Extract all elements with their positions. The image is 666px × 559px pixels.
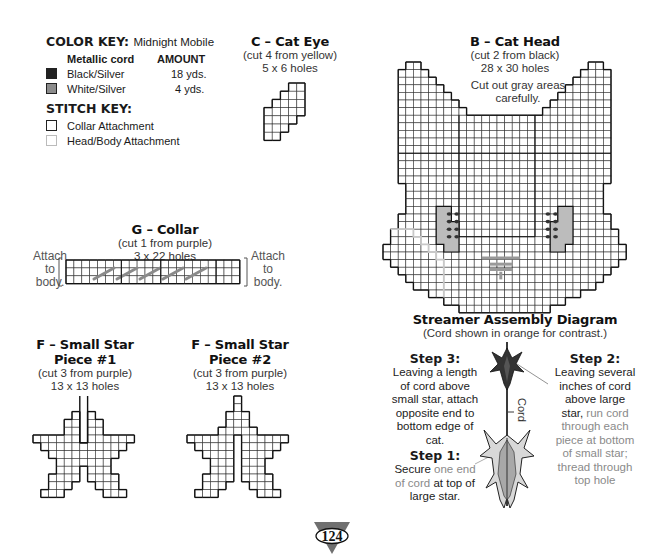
star1-size: 13 x 13 holes (20, 380, 150, 393)
text-dark: Secure (394, 463, 430, 475)
star2-title: F – Small Star (175, 337, 305, 352)
color-key: COLOR KEY: Midnight Mobile Metallic cord… (46, 34, 226, 148)
color-amount: 4 yds. (175, 83, 204, 95)
streamer-subtitle: (Cord shown in orange for contrast.) (400, 327, 630, 340)
cord-label: Cord (516, 398, 528, 422)
star1-header: F – Small Star Piece #1 (cut 3 from purp… (20, 337, 150, 393)
collar-cut: (cut 1 from purple) (90, 237, 240, 250)
cat-head-title: B – Cat Head (440, 34, 590, 49)
collar-left-label: Attach to body. (30, 250, 70, 289)
cat-eye-title: C – Cat Eye (230, 34, 350, 49)
collar-grid (66, 260, 256, 290)
stitch-label: Head/Body Attachment (67, 135, 180, 147)
step2-leader-line (517, 364, 548, 384)
stitch-key-row: Head/Body Attachment (46, 133, 226, 148)
star1-subtitle: Piece #1 (20, 352, 150, 367)
star1-title: F – Small Star (20, 337, 150, 352)
color-key-title: COLOR KEY: Midnight Mobile (46, 34, 226, 49)
text-gray: of cord (395, 477, 430, 489)
black-silver-swatch (46, 68, 57, 79)
color-key-header: Metallic cord AMOUNT (46, 51, 226, 66)
cat-head-cut: (cut 2 from black) (440, 49, 590, 62)
color-key-row: Black/Silver 18 yds. (46, 66, 226, 81)
stitch-label: Collar Attachment (67, 120, 154, 132)
cat-head-grid (383, 62, 623, 292)
color-amount: 18 yds. (171, 68, 206, 80)
collar-header: G – Collar (cut 1 from purple) 3 x 22 ho… (90, 222, 240, 263)
color-key-label: COLOR KEY: (46, 34, 129, 49)
head-body-attachment-swatch (46, 135, 57, 146)
collar-title: G – Collar (90, 222, 240, 237)
white-silver-swatch (46, 83, 57, 94)
collar-attachment-swatch (46, 120, 57, 131)
cat-eye-cut: (cut 4 from yellow) (230, 49, 350, 62)
project-name: Midnight Mobile (133, 36, 214, 48)
stitch-key-row: Collar Attachment (46, 118, 226, 133)
stitch-key-title: STITCH KEY: (46, 101, 226, 116)
star1-cut: (cut 3 from purple) (20, 367, 150, 380)
small-star-icon (490, 348, 524, 390)
color-label: Black/Silver (67, 68, 171, 80)
star2-grid (187, 396, 297, 506)
large-star-icon (480, 430, 534, 508)
streamer-title: Streamer Assembly Diagram (400, 312, 630, 327)
color-label: White/Silver (67, 83, 175, 95)
text-gray: run cord (583, 407, 628, 419)
color-key-row: White/Silver 4 yds. (46, 81, 226, 96)
amount-header: AMOUNT (157, 53, 205, 65)
cat-eye-grid (264, 83, 314, 143)
streamer-header: Streamer Assembly Diagram (Cord shown in… (400, 312, 630, 340)
star1-grid (33, 396, 143, 506)
star2-header: F – Small Star Piece #2 (cut 3 from purp… (175, 337, 305, 393)
streamer-illustration: Cord (470, 340, 570, 520)
cat-eye-size: 5 x 6 holes (230, 62, 350, 75)
page-number: 124 (322, 529, 343, 544)
text-dark: at top of (430, 477, 475, 489)
star2-size: 13 x 13 holes (175, 380, 305, 393)
page-number-badge: 124 (310, 520, 354, 556)
material-header: Metallic cord (67, 53, 157, 65)
star2-subtitle: Piece #2 (175, 352, 305, 367)
text-gray: one end (431, 463, 476, 475)
label-line: body. (30, 276, 70, 289)
cat-eye-header: C – Cat Eye (cut 4 from yellow) 5 x 6 ho… (230, 34, 350, 75)
star2-cut: (cut 3 from purple) (175, 367, 305, 380)
